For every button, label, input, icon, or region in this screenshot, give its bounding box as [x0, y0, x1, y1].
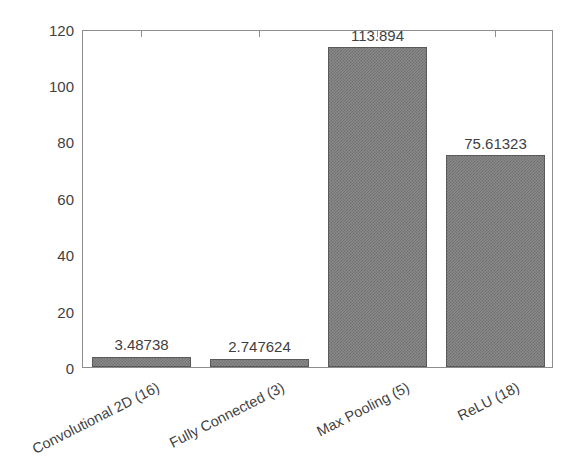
- bar-fully-connected: [210, 359, 309, 367]
- x-category-label-relu: ReLU (18): [404, 380, 522, 450]
- bar-value-label-max-pooling: 113.894: [328, 28, 427, 43]
- y-tick-label-120: 120: [49, 23, 74, 38]
- y-tick-label-60: 60: [57, 192, 74, 207]
- bar-max-pooling: [328, 47, 427, 367]
- y-tick-label-80: 80: [57, 135, 74, 150]
- bar-convolutional-2d: [92, 357, 191, 367]
- bar-value-label-fully-connected: 2.747624: [210, 339, 309, 354]
- y-tick-label-0: 0: [66, 361, 74, 376]
- y-tick-label-20: 20: [57, 305, 74, 320]
- x-tick-mark-top-4: [495, 31, 496, 37]
- bar-value-label-relu: 75.61323: [446, 136, 545, 151]
- chart-figure: 120 100 80 60 40 20 0: [0, 0, 583, 474]
- y-tick-label-100: 100: [49, 79, 74, 94]
- bar-relu: [446, 155, 545, 367]
- y-axis-tick-labels: 120 100 80 60 40 20 0: [0, 0, 74, 474]
- x-tick-mark-top-1: [141, 31, 142, 37]
- x-tick-mark-top-2: [259, 31, 260, 37]
- y-tick-label-40: 40: [57, 248, 74, 263]
- bar-value-label-convolutional-2d: 3.48738: [92, 337, 191, 352]
